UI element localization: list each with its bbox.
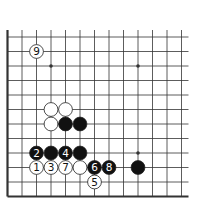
move-number: 4 — [62, 147, 69, 159]
move-number: 5 — [91, 176, 98, 188]
white-stone: 7 — [59, 161, 73, 175]
white-stone — [44, 103, 58, 117]
black-stone — [44, 146, 58, 160]
star-point — [136, 151, 140, 155]
white-stone — [44, 117, 58, 131]
black-stone: 2 — [30, 146, 44, 160]
go-board: 924137685 — [0, 0, 201, 207]
star-point — [49, 64, 53, 68]
move-number: 7 — [62, 161, 69, 173]
move-number: 3 — [48, 161, 55, 173]
white-stone: 9 — [30, 45, 44, 59]
move-number: 1 — [33, 161, 40, 173]
black-stone: 6 — [88, 161, 102, 175]
black-stone — [59, 117, 73, 131]
white-stone: 3 — [44, 161, 58, 175]
move-number: 6 — [91, 161, 98, 173]
black-stone — [73, 117, 87, 131]
black-stone — [73, 146, 87, 160]
black-stone: 8 — [102, 161, 116, 175]
star-point — [136, 64, 140, 68]
move-number: 2 — [33, 147, 40, 159]
black-stone — [131, 161, 145, 175]
white-stone — [59, 103, 73, 117]
move-number: 9 — [33, 45, 40, 57]
black-stone: 4 — [59, 146, 73, 160]
move-number: 8 — [106, 161, 113, 173]
white-stone: 5 — [88, 175, 102, 189]
white-stone — [73, 161, 87, 175]
white-stone: 1 — [30, 161, 44, 175]
